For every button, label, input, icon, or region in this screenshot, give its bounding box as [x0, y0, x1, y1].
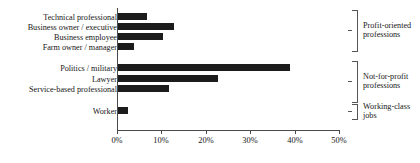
x-tick-label: 10% — [153, 136, 168, 146]
plot-area: 0% 10% 20% 30% 40% 50% — [117, 8, 340, 130]
x-tick — [339, 130, 340, 134]
category-label: Lawyer — [92, 75, 117, 84]
x-tick — [161, 130, 162, 134]
category-label: Politics / military — [60, 64, 117, 73]
group-bracket-tick — [348, 30, 352, 31]
bar-business-employee — [118, 33, 163, 40]
x-tick — [250, 130, 251, 134]
x-tick-label: 30% — [242, 136, 257, 146]
bar-politics-military — [118, 64, 290, 71]
category-label: Business employee — [54, 33, 117, 42]
x-tick-label: 20% — [198, 136, 213, 146]
x-tick — [206, 130, 207, 134]
x-tick-label: 0% — [111, 136, 122, 146]
group-bracket-tick — [348, 81, 352, 82]
category-label: Worker — [93, 107, 117, 116]
group-bracket-working-class — [352, 104, 358, 120]
category-label: Farm owner / manager — [43, 43, 117, 52]
category-label: Business owner / executive — [28, 23, 117, 32]
x-axis-line — [117, 130, 340, 131]
group-label-not-for-profit-line2: professions — [363, 81, 400, 91]
bar-farm-owner-manager — [118, 43, 134, 50]
bar-chart: Technical professional Business owner / … — [0, 0, 420, 163]
bar-lawyer — [118, 75, 218, 82]
bar-service-based-professional — [118, 85, 169, 92]
x-tick-label: 50% — [331, 136, 346, 146]
group-bracket-tick — [348, 111, 352, 112]
bar-worker — [118, 107, 128, 114]
group-label-profit-oriented-line2: professions — [363, 30, 400, 40]
category-label: Service-based professional — [29, 85, 117, 94]
category-label: Technical professional — [43, 13, 117, 22]
group-label-working-class-line2: jobs — [363, 111, 377, 121]
group-bracket-profit-oriented — [352, 10, 358, 52]
group-bracket-not-for-profit — [352, 61, 358, 103]
bar-technical-professional — [118, 13, 147, 20]
x-tick — [117, 130, 118, 134]
x-tick — [295, 130, 296, 134]
x-tick-label: 40% — [287, 136, 302, 146]
bar-business-owner-executive — [118, 23, 174, 30]
